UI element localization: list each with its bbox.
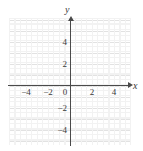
y-tick-label-pos4: 4	[63, 38, 68, 47]
x-tick-label-pos2: 2	[90, 88, 95, 97]
x-axis-label: x	[133, 81, 137, 91]
x-tick-label-pos4: 4	[112, 88, 117, 97]
y-tick-label-pos2: 2	[63, 60, 68, 69]
y-axis-arrowhead-icon	[68, 16, 74, 21]
x-tick-label-neg2: −2	[43, 88, 53, 97]
y-tick-label-neg2: −2	[57, 104, 67, 113]
y-axis-label: y	[65, 5, 69, 15]
coordinate-plane: −4 −2 2 4 0 4 2 −2 −4 x y	[0, 0, 143, 151]
x-tick-label-neg4: −4	[21, 88, 31, 97]
x-axis-line	[8, 85, 129, 86]
y-tick-label-neg4: −4	[57, 126, 67, 135]
origin-label: 0	[63, 88, 68, 97]
y-axis-line	[70, 20, 71, 146]
